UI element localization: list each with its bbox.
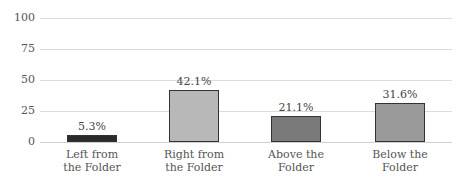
y-tick-75: 75 [0,43,35,55]
category-label: Above theFolder [251,148,341,174]
y-tick-100: 100 [0,12,35,24]
gridline-50 [40,80,452,81]
gridline-0 [40,142,452,143]
value-label: 31.6% [360,88,440,101]
value-label: 42.1% [154,75,234,88]
bar-1 [67,135,117,142]
value-label: 5.3% [52,120,132,133]
y-tick-0: 0 [0,136,35,148]
category-label: Right fromthe Folder [149,148,239,174]
y-tick-25: 25 [0,105,35,117]
bar-3 [271,116,321,142]
category-label: Below theFolder [355,148,445,174]
bar-2 [169,90,219,142]
bar-chart: 100 75 50 25 0 5.3%Left fromthe Folder42… [0,0,474,179]
category-label: Left fromthe Folder [47,148,137,174]
bar-4 [375,103,425,142]
value-label: 21.1% [256,101,336,114]
y-tick-50: 50 [0,74,35,86]
gridline-75 [40,49,452,50]
gridline-100 [40,18,452,19]
